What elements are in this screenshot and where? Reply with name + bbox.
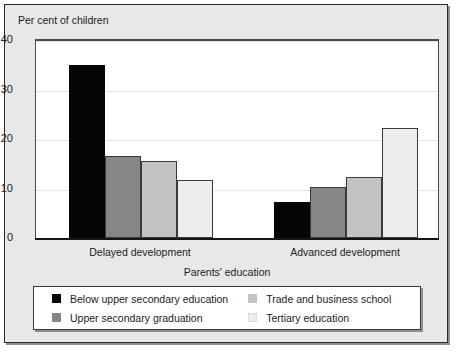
legend-item: Tertiary education (228, 312, 420, 324)
bar (69, 65, 105, 238)
y-tick-label: 30 (0, 83, 13, 95)
bar (105, 156, 141, 238)
gridline (36, 41, 438, 42)
very-light-gray-swatch (248, 313, 257, 322)
chart-legend: Below upper secondary educationTrade and… (33, 286, 421, 330)
plot-area (35, 39, 439, 239)
light-gray-swatch (248, 294, 257, 303)
chart-figure: Per cent of children 010203040 Delayed d… (4, 4, 448, 343)
legend-label: Below upper secondary education (70, 293, 228, 305)
legend-item: Trade and business school (228, 293, 420, 305)
bar (274, 202, 310, 238)
bar (177, 180, 213, 238)
x-tick-label: Advanced development (290, 246, 400, 258)
dark-gray-swatch (52, 313, 61, 322)
y-tick-label: 0 (0, 231, 13, 243)
x-axis-line (35, 238, 439, 240)
black-swatch (52, 294, 61, 303)
bar (141, 161, 177, 238)
x-axis-title: Parents' education (184, 266, 271, 278)
y-tick-label: 40 (0, 33, 13, 45)
y-tick-label: 10 (0, 182, 13, 194)
x-tick-label: Delayed development (89, 246, 191, 258)
plot-inner (36, 41, 438, 238)
legend-label: Tertiary education (266, 312, 349, 324)
bar (310, 187, 346, 238)
y-axis-title: Per cent of children (18, 14, 108, 26)
legend-label: Trade and business school (266, 293, 391, 305)
bar (346, 177, 382, 238)
y-tick-label: 20 (0, 132, 13, 144)
bar (382, 128, 418, 238)
legend-item: Upper secondary graduation (34, 312, 228, 324)
legend-label: Upper secondary graduation (70, 312, 203, 324)
legend-item: Below upper secondary education (34, 293, 228, 305)
